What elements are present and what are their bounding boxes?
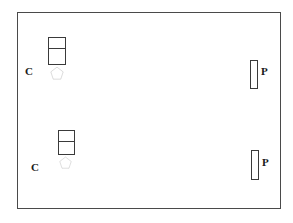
device-box-top-left bbox=[48, 37, 66, 65]
device-box-divider bbox=[58, 141, 76, 142]
label-p-top-right: P bbox=[261, 66, 268, 77]
label-c-top-left: C bbox=[25, 66, 33, 77]
pentagon-marker-top-left bbox=[50, 66, 64, 80]
label-c-bottom-left: C bbox=[31, 162, 39, 173]
vertical-bar-bottom-right bbox=[251, 150, 259, 180]
device-box-bottom-left bbox=[58, 130, 75, 155]
label-p-bottom-right: P bbox=[262, 157, 269, 168]
pentagon-marker-bottom-left bbox=[59, 156, 72, 169]
diagram-canvas: C C P P bbox=[0, 0, 293, 223]
device-box-divider bbox=[48, 48, 67, 49]
vertical-bar-top-right bbox=[250, 60, 258, 89]
